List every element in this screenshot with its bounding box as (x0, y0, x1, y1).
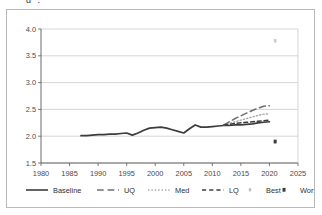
x-tick-label: 1990 (90, 169, 106, 178)
x-tick-label: 2025 (290, 169, 306, 178)
legend-item-lq[interactable]: LQ (202, 186, 239, 195)
x-tick-label: 1985 (61, 169, 77, 178)
x-tick-label: 2010 (204, 169, 220, 178)
x-tick-label: 2000 (147, 169, 163, 178)
y-tick-label: 2.5 (26, 105, 36, 114)
y-tick-label: 2.0 (26, 132, 36, 141)
chart-legend: BaselineUQMedLQBestWorst (26, 186, 314, 195)
x-tick-label: 2005 (176, 169, 192, 178)
legend-item-baseline[interactable]: Baseline (26, 186, 81, 195)
chart-plot: 1.52.02.53.03.54.0 198019851990199520002… (7, 10, 314, 207)
y-tick-label: 3.0 (26, 78, 36, 87)
x-tick-label: 1980 (33, 169, 49, 178)
y-tick-label: 1.5 (26, 159, 36, 168)
legend-label: Worst (300, 186, 314, 195)
x-tick-label: 1995 (118, 169, 134, 178)
y-axis-tick-labels: 1.52.02.53.03.54.0 (26, 25, 36, 168)
legend-item-uq[interactable]: UQ (97, 186, 135, 195)
data-series-lines (81, 106, 269, 136)
x-axis-tick-labels: 1980198519901995200020052010201520202025 (33, 169, 306, 178)
legend-label: Med (175, 186, 189, 195)
x-tick-label: 2015 (233, 169, 249, 178)
chart-frame: 1.52.02.53.03.54.0 198019851990199520002… (6, 9, 315, 208)
series-line-med (224, 114, 270, 125)
legend-item-worst[interactable]: Worst (283, 186, 315, 195)
legend-label: UQ (124, 186, 135, 195)
y-tick-label: 4.0 (26, 25, 36, 34)
gridlines (41, 29, 298, 163)
axes (38, 29, 298, 166)
legend-label: Baseline (53, 186, 81, 195)
legend-item-best[interactable]: Best (249, 186, 281, 195)
series-line-baseline (81, 122, 269, 136)
y-tick-label: 3.5 (26, 51, 36, 60)
legend-label: LQ (229, 186, 239, 195)
cropped-caption-artifact: g . (26, 0, 66, 3)
legend-item-med[interactable]: Med (148, 186, 189, 195)
marker-best (274, 39, 277, 42)
figure-canvas: g . 1.52.02.53.03.54.0 19801985199019952… (0, 0, 322, 215)
legend-label: Best (266, 186, 281, 195)
data-point-markers (274, 39, 277, 143)
x-tick-label: 2020 (261, 169, 277, 178)
marker-worst (274, 140, 277, 144)
